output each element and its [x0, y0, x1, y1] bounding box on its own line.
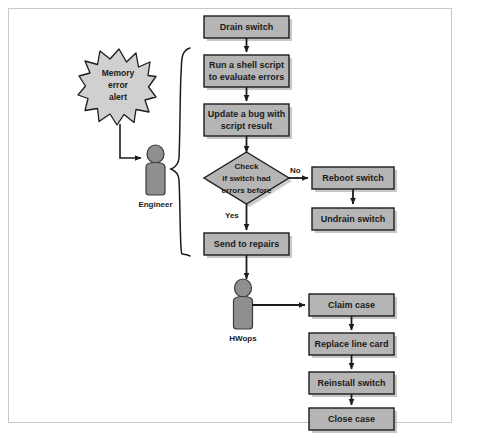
hwops-label: HWops — [229, 334, 257, 343]
hwops-head — [235, 279, 252, 297]
check-errors-label-1: Check — [234, 162, 259, 171]
undrain-switch-label: Undrain switch — [321, 214, 386, 224]
edge-label-yes: Yes — [225, 211, 239, 220]
close-case-label: Close case — [328, 414, 375, 424]
alert-line-3: alert — [109, 92, 127, 102]
check-errors-label-2: if switch had — [222, 174, 271, 183]
node-replace-line-card[interactable]: Replace line card — [309, 333, 397, 358]
claim-case-label: Claim case — [328, 300, 375, 310]
update-bug-label-2: script result — [221, 121, 273, 131]
alert-line-1: Memory — [102, 68, 135, 78]
send-to-repairs-label: Send to repairs — [214, 239, 280, 249]
engineer-label: Engineer — [138, 200, 172, 209]
node-send-to-repairs[interactable]: Send to repairs — [204, 233, 292, 258]
alert-starburst: Memory error alert — [78, 49, 156, 125]
actor-hwops: HWops — [229, 279, 257, 343]
node-reinstall-switch[interactable]: Reinstall switch — [309, 372, 397, 397]
edge-alert-to-engineer — [120, 124, 141, 158]
drain-switch-label: Drain switch — [220, 22, 274, 32]
reinstall-switch-label: Reinstall switch — [317, 378, 385, 388]
node-run-shell-script[interactable]: Run a shell script to evaluate errors — [204, 55, 292, 90]
node-check-errors[interactable]: Check if switch had errors before — [204, 152, 292, 207]
run-shell-script-label-1: Run a shell script — [209, 60, 284, 70]
flowchart-canvas: Memory error alert Engineer Drain switch — [0, 0, 481, 436]
edge-label-no: No — [290, 166, 301, 175]
check-errors-label-3: errors before — [222, 186, 272, 195]
node-undrain-switch[interactable]: Undrain switch — [312, 208, 397, 233]
hwops-body — [234, 297, 253, 330]
node-drain-switch[interactable]: Drain switch — [204, 16, 292, 41]
run-shell-script-label-2: to evaluate errors — [209, 72, 285, 82]
replace-line-card-label: Replace line card — [314, 339, 388, 349]
engineer-body — [146, 163, 165, 196]
engineer-head — [147, 145, 164, 163]
node-close-case[interactable]: Close case — [309, 408, 397, 433]
diagram-page: Memory error alert Engineer Drain switch — [0, 0, 481, 436]
actor-engineer: Engineer — [138, 145, 172, 209]
node-claim-case[interactable]: Claim case — [309, 294, 397, 319]
node-update-bug[interactable]: Update a bug with script result — [204, 104, 292, 139]
node-reboot-switch[interactable]: Reboot switch — [312, 167, 397, 192]
reboot-switch-label: Reboot switch — [322, 173, 384, 183]
update-bug-label-1: Update a bug with — [208, 109, 286, 119]
alert-line-2: error — [108, 80, 129, 90]
engineer-scope-brace — [171, 48, 190, 256]
